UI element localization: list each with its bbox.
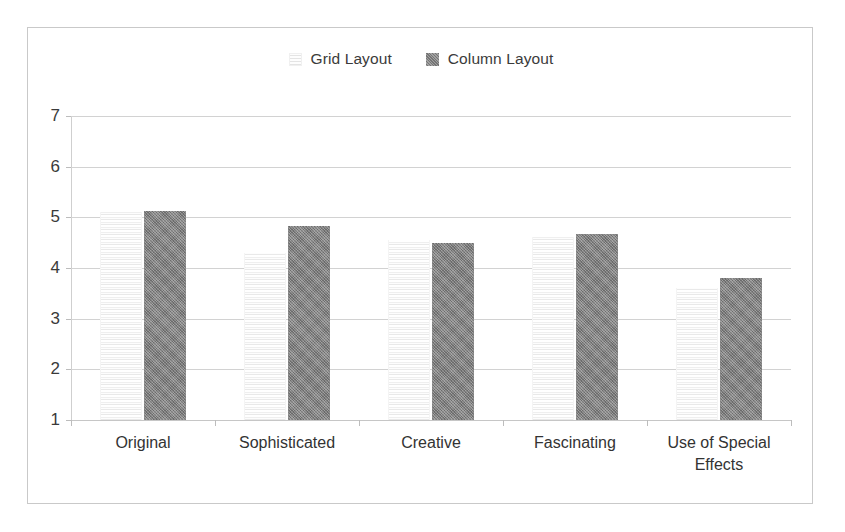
chart-figure: Grid Layout Column Layout 1234567 Origin…: [0, 0, 845, 532]
x-tick: [791, 420, 792, 426]
chart-frame: Grid Layout Column Layout 1234567 Origin…: [27, 27, 813, 504]
y-tick-label-5: 5: [51, 207, 60, 227]
bar-column-layout: [432, 243, 474, 420]
x-tick: [215, 420, 216, 426]
bar-grid-layout: [244, 253, 286, 420]
y-tick-label-7: 7: [51, 106, 60, 126]
legend-label-column-layout: Column Layout: [448, 50, 554, 68]
bar-grid-layout: [388, 240, 430, 420]
bar-group: [647, 116, 791, 420]
legend-item-grid-layout: Grid Layout: [289, 50, 392, 68]
x-tick-label: Use of Special Effects: [644, 432, 794, 476]
column-layout-swatch-icon: [426, 53, 439, 66]
bar-group: [215, 116, 359, 420]
bar-group: [71, 116, 215, 420]
x-tick: [71, 420, 72, 426]
y-tick-label-4: 4: [51, 258, 60, 278]
bar-column-layout: [576, 234, 618, 420]
x-tick-label: Original: [68, 432, 218, 454]
bar-group: [503, 116, 647, 420]
y-tick-label-1: 1: [51, 410, 60, 430]
bar-grid-layout: [100, 212, 142, 420]
bar-grid-layout: [532, 237, 574, 420]
legend-label-grid-layout: Grid Layout: [311, 50, 392, 68]
x-tick-label: Fascinating: [500, 432, 650, 454]
x-tick-label: Sophisticated: [212, 432, 362, 454]
y-tick-label-2: 2: [51, 359, 60, 379]
chart-legend: Grid Layout Column Layout: [28, 50, 814, 68]
x-tick: [503, 420, 504, 426]
y-tick-label-6: 6: [51, 157, 60, 177]
bar-grid-layout: [676, 288, 718, 420]
bar-column-layout: [288, 226, 330, 420]
plot-area: 1234567 OriginalSophisticatedCreativeFas…: [71, 116, 791, 420]
bar-group: [359, 116, 503, 420]
x-tick-label: Creative: [356, 432, 506, 454]
x-axis-line: [71, 420, 791, 421]
x-tick: [359, 420, 360, 426]
grid-layout-swatch-icon: [289, 53, 302, 66]
bar-column-layout: [144, 211, 186, 420]
legend-item-column-layout: Column Layout: [426, 50, 554, 68]
y-tick-label-3: 3: [51, 309, 60, 329]
x-tick: [647, 420, 648, 426]
bar-column-layout: [720, 278, 762, 420]
